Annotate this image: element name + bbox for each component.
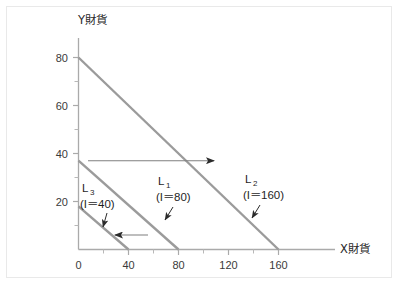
series-label-L1-group: L 1 (I＝80) — [156, 175, 191, 220]
y-tick-label-60: 60 — [56, 100, 68, 112]
series-label-L2-main: L — [245, 173, 252, 185]
series-label-L1-income: (I＝80) — [156, 191, 191, 203]
x-tick-label-0: 0 — [75, 259, 81, 271]
x-tick-labels: 0 40 80 120 160 — [75, 259, 287, 271]
y-axis-ticks — [73, 58, 79, 226]
y-axis-title: Y財貨 — [77, 13, 107, 27]
y-tick-label-80: 80 — [56, 52, 68, 64]
x-tick-label-40: 40 — [122, 259, 134, 271]
series-label-L2-income: (I＝160) — [243, 189, 284, 201]
series-label-L2-group: L 2 (I＝160) — [243, 173, 284, 218]
x-axis-ticks — [104, 250, 279, 256]
y-tick-label-40: 40 — [56, 148, 68, 160]
budget-line-L2 — [79, 58, 279, 250]
x-tick-label-80: 80 — [172, 259, 184, 271]
x-axis-title: X財貨 — [340, 242, 370, 256]
budget-line-chart: 80 60 40 20 0 40 80 120 160 Y財貨 X財貨 L 3 — [0, 0, 399, 285]
y-tick-labels: 80 60 40 20 — [56, 52, 68, 208]
series-label-L3-main: L — [82, 182, 89, 194]
series-label-L3-sub: 3 — [90, 188, 95, 197]
pointer-to-L2-arrow — [252, 205, 260, 218]
pointer-to-L1-arrow — [165, 207, 173, 220]
series-label-L2-sub: 2 — [253, 179, 258, 188]
chart-figure: 80 60 40 20 0 40 80 120 160 Y財貨 X財貨 L 3 — [0, 0, 399, 285]
pointer-to-L3-arrow — [103, 213, 107, 227]
series-label-L1-sub: 1 — [166, 181, 171, 190]
series-label-L3-income: (I＝40) — [80, 198, 115, 210]
x-tick-label-160: 160 — [269, 259, 287, 271]
budget-line-L3 — [79, 206, 129, 249]
y-tick-label-20: 20 — [56, 196, 68, 208]
series-label-L1-main: L — [158, 175, 165, 187]
x-tick-label-120: 120 — [219, 259, 237, 271]
axes-group — [79, 38, 336, 250]
